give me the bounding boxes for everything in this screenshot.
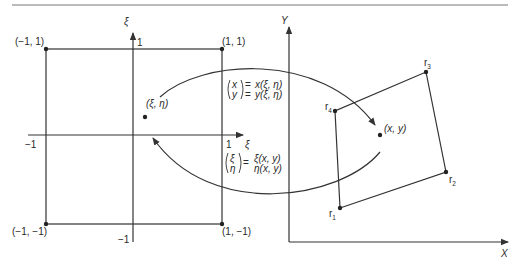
node-r3-label: r3 (424, 57, 431, 70)
physical-node-dots (333, 70, 448, 210)
node-r4-label: r4 (325, 101, 332, 114)
reference-horizontal-axis-label: ξ (245, 139, 250, 151)
svg-text:η(x, y): η(x, y) (254, 163, 282, 174)
tick-bottom-label: −1 (118, 234, 130, 245)
svg-text:=: = (243, 157, 249, 168)
isoparametric-mapping-diagram: ξ ξ 1 −1 −1 1 (−1, 1) (1, 1) (−1, −1) (1… (0, 0, 519, 266)
tick-right-label: 1 (226, 139, 232, 150)
tick-top-label: 1 (137, 37, 143, 48)
reference-corner-dots (44, 47, 224, 226)
svg-text:y: y (231, 89, 238, 100)
corner-top-right-label: (1, 1) (222, 36, 245, 47)
svg-text:y(ξ, η): y(ξ, η) (254, 89, 282, 101)
physical-domain (289, 27, 508, 242)
reference-point-dot (143, 115, 147, 119)
reference-point-label: (ξ, η) (146, 98, 168, 110)
node-r1-label: r1 (329, 208, 336, 221)
reference-vertical-axis-label: ξ (124, 16, 129, 28)
corner-top-left-label: (−1, 1) (15, 36, 44, 47)
forward-map-equation: x y = = x(ξ, η) y(ξ, η) (228, 79, 282, 101)
svg-text:η: η (230, 163, 236, 174)
node-r2-label: r2 (449, 174, 456, 187)
physical-point-label: (x, y) (384, 123, 406, 134)
tick-left-label: −1 (25, 139, 37, 150)
corner-bottom-right-label: (1, −1) (222, 226, 251, 237)
reference-domain (28, 33, 243, 242)
svg-text:=: = (245, 89, 251, 100)
physical-quadrilateral (335, 72, 446, 208)
physical-point-dot (378, 133, 382, 137)
physical-x-axis-label: X (500, 248, 508, 259)
corner-bottom-left-label: (−1, −1) (12, 226, 47, 237)
physical-y-axis-label: Y (281, 15, 289, 26)
reference-square (46, 49, 222, 224)
inverse-map-equation: ξ η = ξ(x, y) η(x, y) (226, 153, 282, 174)
